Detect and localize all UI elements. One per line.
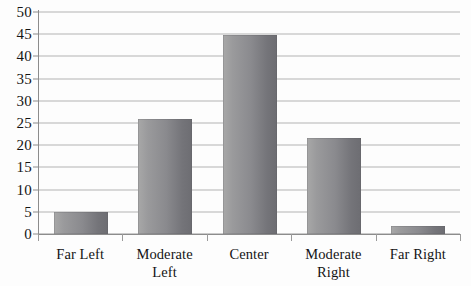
y-axis-tick-label: 25	[0, 116, 32, 131]
y-axis-tick	[33, 12, 38, 13]
x-axis-category-label: Moderate Left	[122, 245, 206, 281]
x-axis-category-label: Moderate Right	[291, 245, 375, 281]
x-axis-tick	[460, 234, 461, 241]
y-axis-tick	[33, 56, 38, 57]
y-axis-tick-label: 10	[0, 182, 32, 197]
x-axis	[38, 234, 460, 242]
y-axis-tick-labels: 05101520253035404550	[0, 0, 32, 240]
y-axis-tick-label: 20	[0, 138, 32, 153]
y-axis-tick-label: 5	[0, 204, 32, 219]
x-axis-category-label: Center	[207, 245, 291, 281]
y-axis-tick	[33, 123, 38, 124]
y-axis-tick	[33, 145, 38, 146]
x-axis-category-labels: Far LeftModerate LeftCenterModerate Righ…	[38, 245, 460, 281]
bar-slot	[123, 12, 207, 234]
x-axis-category-label: Far Right	[376, 245, 460, 281]
y-axis-tick-label: 15	[0, 160, 32, 175]
x-axis-tick	[207, 234, 208, 241]
y-axis-tick	[33, 100, 38, 101]
y-axis-tick	[33, 167, 38, 168]
y-axis-tick-label: 50	[0, 5, 32, 20]
y-axis-tick-label: 35	[0, 71, 32, 86]
bar-slot	[39, 12, 123, 234]
x-axis-tick	[376, 234, 377, 241]
bar-chart: 05101520253035404550 Far LeftModerate Le…	[0, 0, 471, 286]
bar	[54, 212, 108, 234]
x-axis-tick	[122, 234, 123, 241]
y-axis-tick-label: 40	[0, 49, 32, 64]
x-axis-tick	[291, 234, 292, 241]
plot-area	[38, 12, 460, 234]
y-axis-tick-label: 45	[0, 27, 32, 42]
bar	[307, 138, 361, 234]
x-axis-line	[38, 234, 460, 235]
y-axis-tick	[33, 78, 38, 79]
y-axis-tick	[33, 34, 38, 35]
bar-slot	[207, 12, 291, 234]
y-axis-tick-label: 0	[0, 227, 32, 242]
y-axis-tick	[33, 189, 38, 190]
bar	[391, 226, 445, 234]
x-axis-tick	[38, 234, 39, 241]
y-axis-tick-label: 30	[0, 93, 32, 108]
bar-slot	[376, 12, 460, 234]
x-axis-category-label: Far Left	[38, 245, 122, 281]
bar-series	[39, 12, 460, 234]
bar-slot	[292, 12, 376, 234]
bar	[138, 119, 192, 234]
y-axis-tick	[33, 211, 38, 212]
bar	[223, 35, 277, 234]
